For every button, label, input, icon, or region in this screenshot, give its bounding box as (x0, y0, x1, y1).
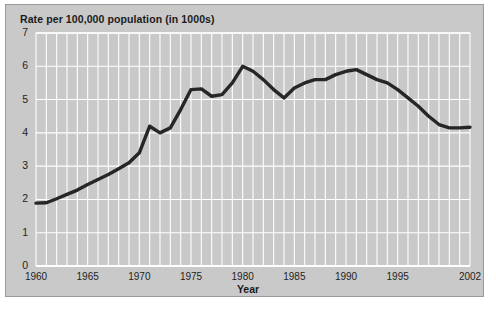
y-tick-label: 2 (6, 192, 28, 204)
y-tick-label: 7 (6, 26, 28, 38)
x-tick-label: 1970 (128, 271, 150, 282)
x-axis-title: Year (0, 283, 496, 295)
gridlines (36, 33, 470, 266)
y-tick-label: 4 (6, 126, 28, 138)
x-tick-label: 1995 (387, 271, 409, 282)
x-tick-label: 1965 (77, 271, 99, 282)
chart-figure: Rate per 100,000 population (in 1000s) 0… (0, 0, 496, 314)
y-tick-label: 1 (6, 226, 28, 238)
x-tick-label: 1985 (283, 271, 305, 282)
line-chart-plot (0, 0, 496, 314)
x-tick-label: 1960 (25, 271, 47, 282)
x-tick-label: 1975 (180, 271, 202, 282)
x-tick-label: 1980 (232, 271, 254, 282)
y-tick-label: 3 (6, 159, 28, 171)
y-tick-label: 5 (6, 93, 28, 105)
x-tick-label: 1990 (335, 271, 357, 282)
x-tick-label: 2002 (459, 271, 481, 282)
y-tick-label: 0 (6, 259, 28, 271)
y-tick-label: 6 (6, 59, 28, 71)
